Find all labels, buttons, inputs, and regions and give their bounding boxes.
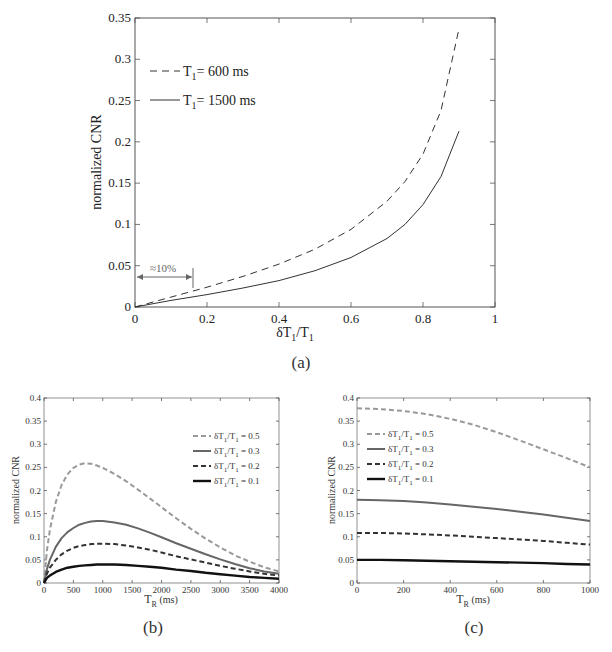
annotation-10-percent: ≈10% <box>150 262 176 274</box>
x-tick-label: 1000 <box>581 585 600 595</box>
chart-c-plot-area <box>357 398 590 583</box>
chart-c: 0200400600800100000.050.10.150.20.250.30… <box>326 393 600 637</box>
y-tick-label: 0.05 <box>108 258 131 273</box>
y-tick-label: 0.4 <box>343 393 355 403</box>
chart-a: 00.20.40.60.8100.050.10.150.20.250.30.35… <box>89 10 498 372</box>
y-tick-label: 0.15 <box>108 175 131 190</box>
y-tick-label: 0 <box>125 299 132 314</box>
y-tick-label: 0.35 <box>108 10 131 25</box>
y-tick-label: 0 <box>37 578 42 588</box>
chart-c-ylabel: normalized CNR <box>326 456 337 524</box>
y-tick-label: 0.1 <box>30 532 41 542</box>
y-tick-label: 0.35 <box>25 416 41 426</box>
chart-a-caption: (a) <box>292 353 311 372</box>
y-tick-label: 0.3 <box>115 51 131 66</box>
y-tick-label: 0.35 <box>338 416 354 426</box>
chart-b-ylabel: normalized CNR <box>10 456 21 524</box>
y-tick-label: 0.4 <box>30 393 42 403</box>
x-tick-label: 500 <box>67 585 81 595</box>
x-tick-label: 0.6 <box>343 311 360 326</box>
x-tick-label: 1 <box>492 311 499 326</box>
y-tick-label: 0.05 <box>338 555 354 565</box>
x-tick-label: 600 <box>490 585 504 595</box>
x-tick-label: 4000 <box>270 585 289 595</box>
y-tick-label: 0.05 <box>25 555 41 565</box>
x-tick-label: 1000 <box>94 585 113 595</box>
y-tick-label: 0.15 <box>25 509 41 519</box>
x-tick-label: 0.8 <box>415 311 431 326</box>
y-tick-label: 0.1 <box>343 532 354 542</box>
x-tick-label: 3500 <box>241 585 260 595</box>
x-tick-label: 2500 <box>182 585 201 595</box>
y-tick-label: 0.1 <box>115 216 131 231</box>
x-tick-label: 800 <box>537 585 551 595</box>
x-tick-label: 0 <box>132 311 139 326</box>
y-tick-label: 0.2 <box>343 486 354 496</box>
x-tick-label: 1500 <box>123 585 142 595</box>
y-tick-label: 0.2 <box>115 134 131 149</box>
y-tick-label: 0.25 <box>338 462 354 472</box>
y-tick-label: 0.25 <box>25 462 41 472</box>
y-tick-label: 0 <box>350 578 355 588</box>
x-tick-label: 0 <box>355 585 360 595</box>
x-tick-label: 0.2 <box>199 311 215 326</box>
chart-c-caption: (c) <box>465 618 484 637</box>
chart-b-xlabel: TR (ms) <box>144 592 178 609</box>
x-tick-label: 200 <box>397 585 411 595</box>
y-tick-label: 0.3 <box>343 439 355 449</box>
chart-b-caption: (b) <box>143 618 163 637</box>
y-tick-label: 0.2 <box>30 486 41 496</box>
chart-c-xlabel: TR (ms) <box>456 592 490 609</box>
x-tick-label: 3000 <box>211 585 230 595</box>
chart-a-plot-area <box>135 18 495 307</box>
y-tick-label: 0.3 <box>30 439 42 449</box>
chart-a-ylabel: normalized CNR <box>89 114 104 210</box>
chart-b: 0500100015002000250030003500400000.050.1… <box>10 393 289 637</box>
x-tick-label: 0.4 <box>271 311 288 326</box>
figure-canvas: 00.20.40.60.8100.050.10.150.20.250.30.35… <box>0 0 612 652</box>
x-tick-label: 0 <box>42 585 47 595</box>
chart-a-xlabel: δT1/T1 <box>276 325 314 343</box>
y-tick-label: 0.25 <box>108 93 131 108</box>
y-tick-label: 0.15 <box>338 509 354 519</box>
chart-b-plot-area <box>44 398 279 583</box>
